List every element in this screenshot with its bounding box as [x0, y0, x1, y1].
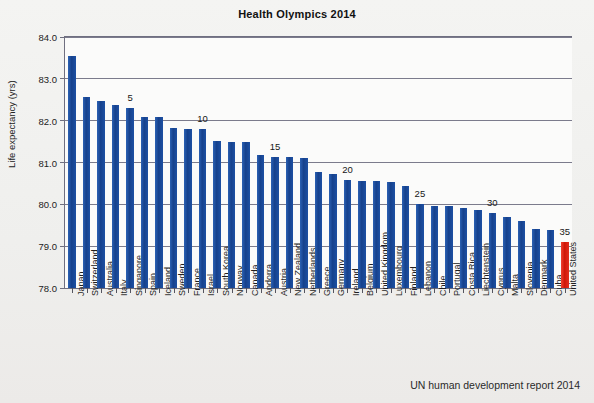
chart-figure: Health Olympics 2014 Life expectancy (yr… — [0, 0, 594, 403]
plot-area: 84.083.082.081.080.079.078.0JapanSwitzer… — [64, 36, 572, 288]
x-axis-tick — [550, 288, 551, 293]
x-axis-tick — [420, 288, 421, 293]
y-axis-tick — [60, 288, 65, 289]
bar — [141, 117, 149, 288]
y-axis-tick — [60, 120, 65, 121]
x-axis-tick — [463, 288, 464, 293]
x-axis-tick — [434, 288, 435, 293]
gridline — [65, 37, 572, 38]
bar — [155, 117, 163, 288]
source-note: UN human development report 2014 — [410, 379, 580, 391]
x-axis-tick — [536, 288, 537, 293]
x-axis-tick — [521, 288, 522, 293]
bar — [242, 142, 250, 288]
rank-annotation: 15 — [270, 141, 281, 152]
x-axis-tick — [449, 288, 450, 293]
x-axis-tick — [290, 288, 291, 293]
y-axis-tick-label: 78.0 — [39, 283, 58, 294]
x-axis-tick — [217, 288, 218, 293]
y-axis-tick-label: 82.0 — [39, 115, 58, 126]
bar — [97, 101, 105, 288]
bar — [213, 141, 221, 288]
bar — [199, 129, 207, 288]
x-axis-tick — [174, 288, 175, 293]
x-axis-tick — [87, 288, 88, 293]
x-axis-tick — [565, 288, 566, 293]
x-axis-tick — [333, 288, 334, 293]
y-axis-tick — [60, 204, 65, 205]
bar — [184, 129, 192, 288]
rank-annotation: 35 — [559, 226, 570, 237]
y-axis-tick-label: 83.0 — [39, 73, 58, 84]
x-axis-tick — [275, 288, 276, 293]
x-axis-tick — [203, 288, 204, 293]
rank-annotation: 10 — [197, 113, 208, 124]
x-axis-tick — [478, 288, 479, 293]
bar — [518, 221, 526, 288]
rank-annotation: 30 — [487, 197, 498, 208]
y-axis-tick-label: 80.0 — [39, 199, 58, 210]
x-axis-tick-label: United States — [568, 242, 578, 296]
x-axis-tick — [232, 288, 233, 293]
y-axis-tick — [60, 78, 65, 79]
y-axis-tick-label: 81.0 — [39, 157, 58, 168]
y-axis-tick — [60, 162, 65, 163]
gridline — [65, 78, 572, 79]
x-axis-tick — [391, 288, 392, 293]
y-axis-tick-label: 79.0 — [39, 241, 58, 252]
rank-annotation: 5 — [128, 92, 133, 103]
x-axis-tick — [261, 288, 262, 293]
x-axis-tick — [347, 288, 348, 293]
x-axis-tick — [319, 288, 320, 293]
x-axis-tick — [101, 288, 102, 293]
y-axis-tick — [60, 37, 65, 38]
y-axis-tick — [60, 246, 65, 247]
x-axis-tick — [304, 288, 305, 293]
bar — [547, 230, 555, 288]
bar — [68, 56, 76, 288]
bar — [126, 108, 134, 288]
rank-annotation: 20 — [342, 164, 353, 175]
x-axis-tick — [362, 288, 363, 293]
x-axis-tick — [159, 288, 160, 293]
x-axis-tick — [188, 288, 189, 293]
x-axis-tick — [116, 288, 117, 293]
bar — [271, 157, 279, 288]
y-axis-title: Life expectancy (yrs) — [6, 80, 17, 168]
x-axis-tick — [405, 288, 406, 293]
x-axis-tick — [246, 288, 247, 293]
bar — [489, 213, 497, 288]
x-axis-tick — [130, 288, 131, 293]
bar — [460, 208, 468, 288]
x-axis-tick — [145, 288, 146, 293]
x-axis-tick — [376, 288, 377, 293]
x-axis-tick — [492, 288, 493, 293]
bar — [300, 158, 308, 288]
chart-title: Health Olympics 2014 — [0, 8, 594, 20]
bar — [112, 105, 120, 288]
rank-annotation: 25 — [415, 188, 426, 199]
x-axis-tick — [507, 288, 508, 293]
x-axis-tick — [72, 288, 73, 293]
y-axis-tick-label: 84.0 — [39, 32, 58, 43]
bar — [431, 206, 439, 288]
